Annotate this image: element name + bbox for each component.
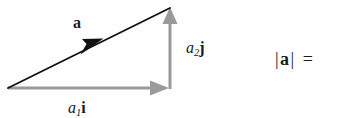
unit-vector-i: i [81,99,85,116]
resultant-vector-label: a [73,15,81,31]
horizontal-component-label: a1i [68,100,86,118]
resultant-vector-arrow [8,8,170,88]
vertical-component-arrow [163,7,178,89]
magnitude-expression: |a|= [274,50,313,68]
magnitude-vector-name: a [280,49,290,69]
equals-sign: = [303,49,314,69]
horizontal-component-scalar: a [68,99,76,116]
horizontal-component-arrow [8,81,169,96]
magnitude-close-bar: | [290,49,296,69]
unit-vector-j: j [199,39,204,56]
resultant-vector-name: a [73,14,81,31]
vector-diagram-figure: a a2j a1i |a|= [0,0,337,118]
vertical-component-scalar: a [186,39,194,56]
vertical-component-label: a2j [186,40,205,59]
